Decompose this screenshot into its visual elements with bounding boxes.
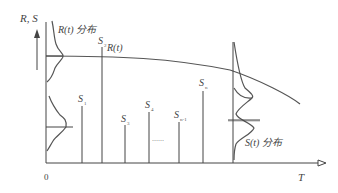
- svg-text:S: S: [121, 113, 126, 124]
- svg-text:n: n: [205, 85, 208, 90]
- ellipsis: ……: [152, 136, 164, 142]
- up-arrow-icon: [34, 29, 40, 38]
- diagram-svg: R, S 0 T R(t) 分布 R(t) S 1 S 2: [0, 0, 338, 193]
- strength-curve-label: R(t): [106, 42, 123, 54]
- origin-label: 0: [44, 172, 49, 182]
- stress-distribution-left-curve: [47, 96, 66, 151]
- stress-strength-diagram: R, S 0 T R(t) 分布 R(t) S 1 S 2: [0, 0, 338, 193]
- y-axis-label: R, S: [19, 12, 38, 24]
- svg-text:1: 1: [84, 101, 87, 106]
- svg-text:S: S: [78, 93, 83, 104]
- x-axis-label: T: [298, 171, 305, 183]
- svg-text:S: S: [145, 99, 150, 110]
- stress-distribution-label: S(t) 分布: [245, 137, 284, 149]
- stress-sample-label-2: S 2: [98, 35, 107, 48]
- svg-text:S: S: [174, 109, 179, 120]
- stress-sample-label-n-1: S n-1: [174, 109, 187, 122]
- svg-text:S: S: [98, 35, 103, 46]
- stress-sample-label-4: S 4: [145, 99, 154, 112]
- stress-sample-label-n: S n: [199, 77, 208, 90]
- stress-sample-label-3: S 3: [121, 113, 130, 126]
- x-axis-arrow-icon: [318, 160, 326, 166]
- strength-curve: [46, 56, 300, 104]
- svg-text:S: S: [199, 77, 204, 88]
- svg-text:n-1: n-1: [180, 117, 187, 122]
- stress-sample-label-1: S 1: [78, 93, 87, 106]
- strength-distribution-label: R(t) 分布: [57, 24, 98, 36]
- svg-text:4: 4: [151, 107, 154, 112]
- strength-distribution-right-curve: [234, 88, 252, 98]
- svg-text:3: 3: [127, 121, 130, 126]
